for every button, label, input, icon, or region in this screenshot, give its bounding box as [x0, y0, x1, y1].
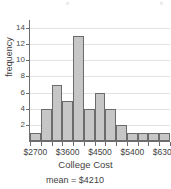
x-tick-mark — [62, 142, 63, 146]
histogram-bar — [52, 85, 63, 141]
y-tick-mark — [26, 76, 30, 77]
y-tick-mark — [26, 44, 30, 45]
y-tick-label: 4 — [3, 105, 25, 113]
x-tick-mark — [30, 142, 31, 146]
histogram-bar — [41, 109, 52, 141]
x-tick-mark — [148, 142, 149, 146]
x-tick-mark — [127, 142, 128, 146]
header-n-left: n — [66, 0, 69, 6]
histogram-bar — [116, 125, 127, 141]
histogram-bar — [95, 93, 106, 141]
x-tick-mark — [170, 142, 171, 146]
y-tick-label: 2 — [3, 121, 25, 129]
header-n-right: n — [160, 0, 163, 6]
y-tick-mark — [26, 60, 30, 61]
x-axis-title: College Cost — [0, 159, 171, 170]
y-tick-mark — [26, 28, 30, 29]
histogram-bar — [159, 133, 170, 141]
histogram-bar — [148, 133, 159, 141]
histogram-bar — [30, 133, 41, 141]
x-tick-mark — [52, 142, 53, 146]
x-tick-label: $6300 — [153, 147, 171, 157]
x-tick-mark — [105, 142, 106, 146]
x-tick-label: $2700 — [24, 147, 48, 157]
x-tick-mark — [73, 142, 74, 146]
y-axis-title: frequency — [4, 25, 14, 89]
histogram-bar — [127, 133, 138, 141]
y-tick-label: 6 — [3, 89, 25, 97]
y-tick-mark — [26, 125, 30, 126]
histogram-figure: n n 2468101214 frequency College Cost me… — [0, 0, 171, 189]
x-tick-mark — [41, 142, 42, 146]
page-header-fragment: n n — [0, 0, 171, 9]
histogram-bar — [73, 36, 84, 141]
mean-caption: mean = $4210 — [0, 175, 150, 185]
y-tick-mark — [26, 109, 30, 110]
histogram-bar — [62, 101, 73, 141]
x-tick-mark — [95, 142, 96, 146]
x-tick-mark — [84, 142, 85, 146]
histogram-bars — [30, 20, 170, 142]
x-tick-mark — [116, 142, 117, 146]
histogram-bar — [84, 109, 95, 141]
x-tick-mark — [138, 142, 139, 146]
histogram-bar — [105, 109, 116, 141]
x-tick-label: $5400 — [120, 147, 144, 157]
y-tick-mark — [26, 93, 30, 94]
histogram-bar — [138, 133, 149, 141]
x-tick-mark — [159, 142, 160, 146]
x-tick-label: $4500 — [88, 147, 112, 157]
x-tick-label: $3600 — [56, 147, 80, 157]
